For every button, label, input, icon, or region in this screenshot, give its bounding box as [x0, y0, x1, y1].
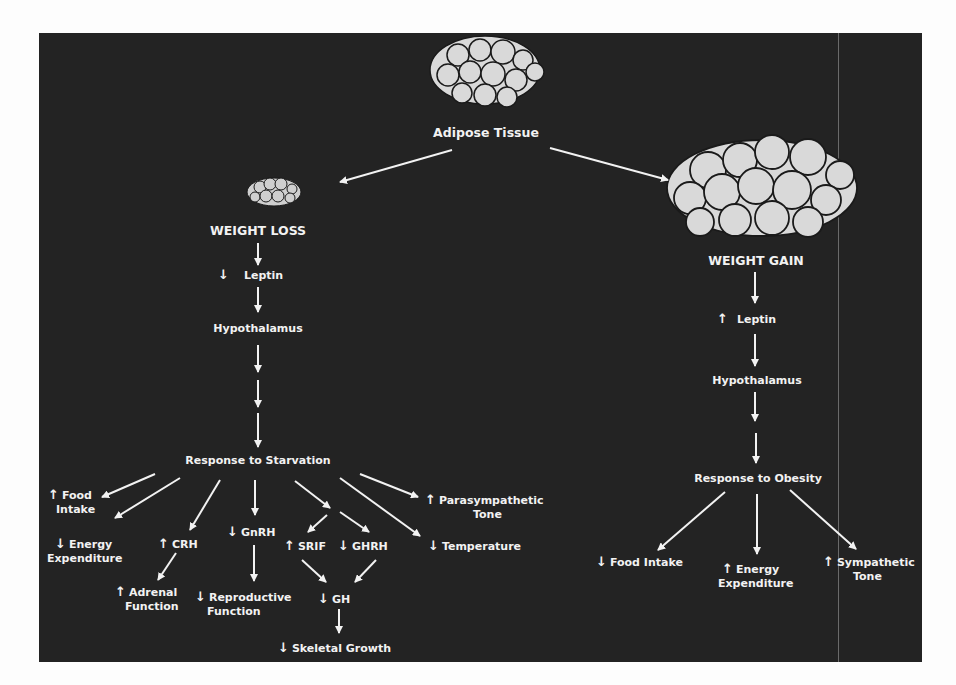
right-hypothalamus: Hypothalamus	[712, 374, 801, 388]
up-arrow-icon: ↑	[284, 538, 295, 553]
small-adipose-cluster-icon	[247, 178, 301, 206]
weight-gain-heading: WEIGHT GAIN	[708, 254, 804, 268]
left-leptin: ↓Leptin	[218, 268, 283, 283]
effect-energy-expenditure: ↓EnergyExpenditure	[55, 537, 122, 566]
effect-reproductive-function: ↓ReproductiveFunction	[195, 590, 292, 619]
effect-temperature: ↓Temperature	[428, 539, 521, 554]
up-arrow-icon: ↑	[48, 487, 59, 502]
effect-crh: ↑CRH	[158, 537, 198, 552]
up-arrow-icon: ↑	[115, 584, 126, 599]
response-to-obesity: Response to Obesity	[694, 472, 822, 486]
weight-loss-heading: WEIGHT LOSS	[210, 224, 306, 238]
down-arrow-icon: ↓	[338, 538, 349, 553]
up-arrow-icon: ↑	[158, 536, 169, 551]
effect-gh: ↓GH	[318, 592, 350, 607]
effect-srif: ↑SRIF	[284, 539, 326, 554]
adipose-tissue-cluster-icon	[430, 36, 544, 107]
down-arrow-icon: ↓	[596, 554, 607, 569]
effect-ghrh: ↓GHRH	[338, 539, 388, 554]
effect-parasympathetic-tone: ↑ParasympatheticTone	[425, 493, 544, 522]
down-arrow-icon: ↓	[55, 536, 66, 551]
effect-energy-expenditure-obesity: ↑EnergyExpenditure	[722, 562, 793, 591]
diagram-graphics	[0, 0, 956, 685]
up-arrow-icon: ↑	[823, 554, 834, 569]
large-adipose-cluster-icon	[667, 135, 857, 237]
effect-sympathetic-tone: ↑SympatheticTone	[823, 555, 915, 584]
effect-food-intake: ↑FoodIntake	[48, 488, 95, 517]
down-arrow-icon: ↓	[218, 267, 229, 282]
effect-skeletal-growth: ↓Skeletal Growth	[278, 641, 391, 656]
effect-gnrh: ↓GnRH	[227, 525, 275, 540]
down-arrow-icon: ↓	[318, 591, 329, 606]
up-arrow-icon: ↑	[722, 561, 733, 576]
left-hypothalamus: Hypothalamus	[213, 322, 302, 336]
down-arrow-icon: ↓	[428, 538, 439, 553]
response-to-starvation: Response to Starvation	[185, 454, 330, 468]
right-leptin: ↑Leptin	[717, 312, 776, 327]
effect-adrenal-function: ↑AdrenalFunction	[115, 585, 179, 614]
effect-food-intake-obesity: ↓Food Intake	[596, 555, 683, 570]
down-arrow-icon: ↓	[195, 589, 206, 604]
down-arrow-icon: ↓	[227, 524, 238, 539]
up-arrow-icon: ↑	[425, 492, 436, 507]
down-arrow-icon: ↓	[278, 640, 289, 655]
adipose-tissue-title: Adipose Tissue	[433, 126, 539, 140]
up-arrow-icon: ↑	[717, 311, 728, 326]
